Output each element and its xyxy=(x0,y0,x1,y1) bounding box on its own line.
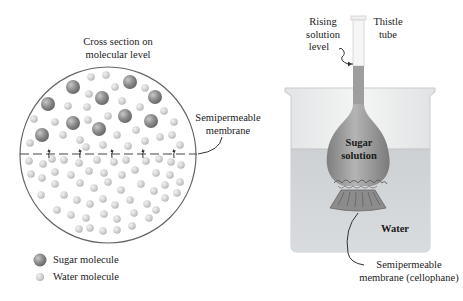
legend-water-label: Water molecule xyxy=(53,271,119,284)
membrane-label-line-1: Semipermeable xyxy=(182,112,274,125)
title-line-2: molecular level xyxy=(68,49,168,62)
sugar-solution-label: Sugar solution xyxy=(333,137,385,162)
tube-line-2: tube xyxy=(366,29,410,42)
cellophane-line-1: Semipermeable xyxy=(353,259,463,272)
rising-line-3: level xyxy=(292,41,346,54)
cellophane-line-2: membrane (cellophane) xyxy=(353,272,463,285)
rising-line-2: solution xyxy=(300,29,346,42)
tube-line-1: Thistle xyxy=(366,16,410,29)
cellophane-membrane-label: Semipermeable membrane (cellophane) xyxy=(353,259,463,284)
bulb-line-1: Sugar xyxy=(333,137,385,150)
water-molecule-icon xyxy=(36,273,44,281)
water-label: Water xyxy=(370,223,420,236)
rising-solution-label: Rising solution level xyxy=(300,16,346,54)
cross-section-circle xyxy=(20,67,222,243)
legend-sugar-label: Sugar molecule xyxy=(53,254,119,267)
thistle-tube-label: Thistle tube xyxy=(366,16,410,41)
membrane-label-left: Semipermeable membrane xyxy=(182,112,274,137)
cross-section-title: Cross section on molecular level xyxy=(68,36,168,61)
title-line-1: Cross section on xyxy=(68,36,168,49)
bulb-line-2: solution xyxy=(333,150,385,163)
rising-line-1: Rising xyxy=(300,16,346,29)
membrane-label-line-2: membrane xyxy=(182,125,274,138)
sugar-molecule-icon xyxy=(34,254,47,267)
membrane-leader-line xyxy=(198,137,222,154)
